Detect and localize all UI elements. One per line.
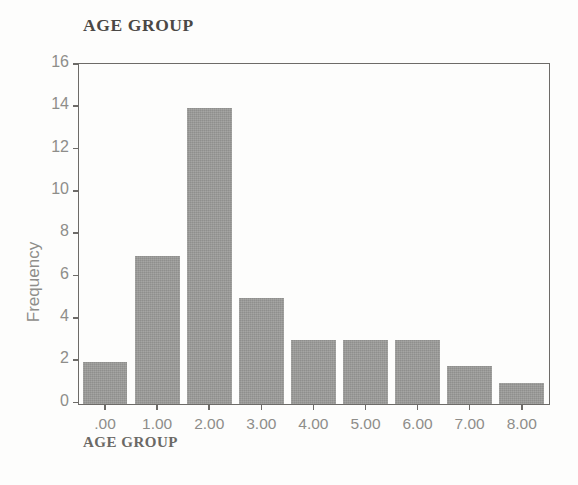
plot-area: 0246810121416.001.002.003.004.005.006.00… (79, 64, 549, 404)
bar-rect (447, 366, 492, 404)
bar-rect (499, 383, 544, 404)
y-tick-label: 16 (29, 53, 69, 71)
bar-.00 (79, 64, 131, 404)
bar-5.00 (339, 64, 391, 404)
y-tick-mark (73, 402, 79, 404)
bar-3.00 (235, 64, 287, 404)
x-tick-mark (313, 404, 315, 410)
x-tick-mark (208, 404, 210, 410)
y-tick-mark (73, 275, 79, 277)
bar-2.00 (183, 64, 235, 404)
y-tick-label: 6 (29, 265, 69, 283)
x-tick-mark (521, 404, 523, 410)
bar-rect (395, 340, 440, 404)
y-tick-label: 8 (29, 222, 69, 240)
histogram-figure: AGE GROUP Frequency 0246810121416.001.00… (0, 0, 578, 485)
y-tick-mark (73, 105, 79, 107)
bar-rect (291, 340, 336, 404)
y-tick-mark (73, 359, 79, 361)
y-tick-mark (73, 317, 79, 319)
y-tick-mark (73, 232, 79, 234)
chart-title: AGE GROUP (83, 15, 194, 36)
y-tick-mark (73, 190, 79, 192)
y-tick-label: 2 (29, 349, 69, 367)
x-tick-label: 8.00 (487, 415, 557, 433)
plot-frame: 0246810121416.001.002.003.004.005.006.00… (78, 63, 550, 405)
bar-8.00 (496, 64, 548, 404)
x-tick-mark (261, 404, 263, 410)
bar-1.00 (131, 64, 183, 404)
bar-rect (83, 362, 128, 404)
bar-rect (343, 340, 388, 404)
y-tick-label: 4 (29, 307, 69, 325)
bar-rect (187, 108, 232, 404)
x-tick-mark (365, 404, 367, 410)
x-tick-mark (156, 404, 158, 410)
bar-6.00 (392, 64, 444, 404)
x-axis-label: AGE GROUP (83, 434, 178, 451)
bar-rect (239, 298, 284, 404)
x-tick-mark (417, 404, 419, 410)
y-tick-label: 12 (29, 138, 69, 156)
x-tick-mark (104, 404, 106, 410)
bar-rect (135, 256, 180, 404)
y-tick-label: 14 (29, 95, 69, 113)
bar-7.00 (444, 64, 496, 404)
y-tick-mark (73, 63, 79, 65)
bar-4.00 (287, 64, 339, 404)
x-tick-mark (469, 404, 471, 410)
y-tick-label: 0 (29, 392, 69, 410)
y-tick-label: 10 (29, 180, 69, 198)
y-tick-mark (73, 148, 79, 150)
